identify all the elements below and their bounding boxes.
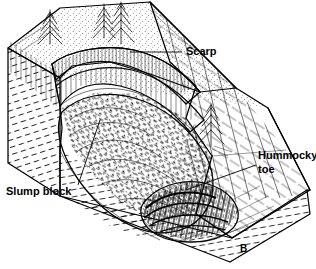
scarp-label: Scarp bbox=[186, 45, 217, 57]
hummocky-toe-label-line1: Hummocky bbox=[258, 149, 316, 161]
hummocky-toe-label-line2: toe bbox=[258, 163, 275, 175]
diagram-canvas: Scarp Hummocky toe Slump block B bbox=[0, 0, 316, 269]
figure-letter-label: B bbox=[240, 243, 247, 254]
landslide-block-diagram: Scarp Hummocky toe Slump block B bbox=[0, 0, 316, 269]
slump-block-label: Slump block bbox=[6, 185, 72, 197]
